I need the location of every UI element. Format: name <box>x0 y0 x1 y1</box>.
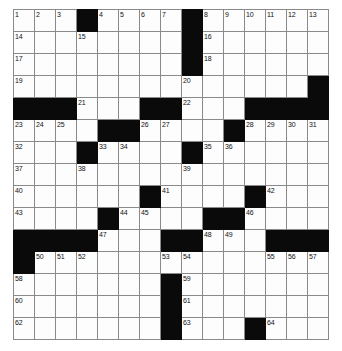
crossword-cell[interactable]: 55 <box>266 252 287 274</box>
crossword-cell[interactable]: 54 <box>182 252 203 274</box>
crossword-cell[interactable] <box>77 318 98 340</box>
crossword-cell[interactable] <box>224 252 245 274</box>
crossword-cell[interactable] <box>287 142 308 164</box>
crossword-grid[interactable]: 1234567891011121314151617181920212223242… <box>13 9 329 340</box>
crossword-cell[interactable] <box>77 296 98 318</box>
crossword-cell[interactable] <box>224 32 245 54</box>
crossword-cell[interactable] <box>56 32 77 54</box>
crossword-cell[interactable]: 10 <box>245 10 266 32</box>
crossword-cell[interactable] <box>98 76 119 98</box>
crossword-cell[interactable] <box>161 32 182 54</box>
crossword-cell[interactable]: 63 <box>182 318 203 340</box>
crossword-cell[interactable] <box>245 164 266 186</box>
crossword-cell[interactable] <box>203 164 224 186</box>
crossword-cell[interactable] <box>119 230 140 252</box>
crossword-cell[interactable]: 32 <box>14 142 35 164</box>
crossword-cell[interactable] <box>287 186 308 208</box>
crossword-cell[interactable]: 14 <box>14 32 35 54</box>
crossword-cell[interactable] <box>35 32 56 54</box>
crossword-cell[interactable]: 18 <box>203 54 224 76</box>
crossword-cell[interactable] <box>140 296 161 318</box>
crossword-cell[interactable]: 9 <box>224 10 245 32</box>
crossword-cell[interactable]: 21 <box>77 98 98 120</box>
crossword-cell[interactable]: 44 <box>119 208 140 230</box>
crossword-cell[interactable] <box>266 208 287 230</box>
crossword-cell[interactable] <box>287 318 308 340</box>
crossword-cell[interactable] <box>35 186 56 208</box>
crossword-cell[interactable]: 59 <box>182 274 203 296</box>
crossword-cell[interactable]: 23 <box>14 120 35 142</box>
crossword-cell[interactable] <box>308 32 329 54</box>
crossword-cell[interactable]: 27 <box>161 120 182 142</box>
crossword-cell[interactable] <box>140 142 161 164</box>
crossword-cell[interactable] <box>98 296 119 318</box>
crossword-cell[interactable] <box>224 318 245 340</box>
crossword-cell[interactable] <box>77 54 98 76</box>
crossword-cell[interactable]: 49 <box>224 230 245 252</box>
crossword-cell[interactable] <box>308 186 329 208</box>
crossword-cell[interactable] <box>35 164 56 186</box>
crossword-cell[interactable]: 4 <box>98 10 119 32</box>
crossword-cell[interactable] <box>140 54 161 76</box>
crossword-cell[interactable] <box>203 98 224 120</box>
crossword-cell[interactable]: 37 <box>14 164 35 186</box>
crossword-cell[interactable] <box>245 296 266 318</box>
crossword-cell[interactable]: 42 <box>266 186 287 208</box>
crossword-cell[interactable] <box>308 142 329 164</box>
crossword-cell[interactable]: 11 <box>266 10 287 32</box>
crossword-cell[interactable] <box>140 252 161 274</box>
crossword-cell[interactable] <box>77 186 98 208</box>
crossword-cell[interactable] <box>119 296 140 318</box>
crossword-cell[interactable]: 1 <box>14 10 35 32</box>
crossword-cell[interactable] <box>56 54 77 76</box>
crossword-cell[interactable] <box>245 142 266 164</box>
crossword-cell[interactable] <box>56 208 77 230</box>
crossword-cell[interactable]: 19 <box>14 76 35 98</box>
crossword-cell[interactable]: 8 <box>203 10 224 32</box>
crossword-cell[interactable]: 46 <box>245 208 266 230</box>
crossword-cell[interactable] <box>203 274 224 296</box>
crossword-cell[interactable] <box>203 186 224 208</box>
crossword-cell[interactable] <box>245 76 266 98</box>
crossword-cell[interactable] <box>140 76 161 98</box>
crossword-cell[interactable] <box>77 120 98 142</box>
crossword-cell[interactable] <box>35 54 56 76</box>
crossword-cell[interactable] <box>119 318 140 340</box>
crossword-cell[interactable] <box>98 32 119 54</box>
crossword-cell[interactable]: 26 <box>140 120 161 142</box>
crossword-cell[interactable] <box>119 98 140 120</box>
crossword-cell[interactable]: 64 <box>266 318 287 340</box>
crossword-cell[interactable] <box>245 230 266 252</box>
crossword-cell[interactable] <box>35 208 56 230</box>
crossword-cell[interactable] <box>35 318 56 340</box>
crossword-cell[interactable] <box>287 54 308 76</box>
crossword-cell[interactable] <box>266 164 287 186</box>
crossword-cell[interactable] <box>224 296 245 318</box>
crossword-cell[interactable] <box>287 76 308 98</box>
crossword-cell[interactable]: 61 <box>182 296 203 318</box>
crossword-cell[interactable] <box>203 120 224 142</box>
crossword-cell[interactable]: 30 <box>287 120 308 142</box>
crossword-cell[interactable] <box>308 208 329 230</box>
crossword-cell[interactable] <box>245 274 266 296</box>
crossword-cell[interactable] <box>266 274 287 296</box>
crossword-cell[interactable] <box>119 76 140 98</box>
crossword-cell[interactable] <box>119 252 140 274</box>
crossword-cell[interactable] <box>203 296 224 318</box>
crossword-cell[interactable] <box>203 76 224 98</box>
crossword-cell[interactable] <box>245 252 266 274</box>
crossword-cell[interactable] <box>245 54 266 76</box>
crossword-cell[interactable] <box>224 186 245 208</box>
crossword-cell[interactable]: 52 <box>77 252 98 274</box>
crossword-cell[interactable] <box>224 98 245 120</box>
crossword-cell[interactable] <box>56 164 77 186</box>
crossword-cell[interactable]: 40 <box>14 186 35 208</box>
crossword-cell[interactable] <box>287 296 308 318</box>
crossword-cell[interactable] <box>287 32 308 54</box>
crossword-cell[interactable]: 60 <box>14 296 35 318</box>
crossword-cell[interactable] <box>56 186 77 208</box>
crossword-cell[interactable]: 29 <box>266 120 287 142</box>
crossword-cell[interactable] <box>266 54 287 76</box>
crossword-cell[interactable]: 24 <box>35 120 56 142</box>
crossword-cell[interactable] <box>266 32 287 54</box>
